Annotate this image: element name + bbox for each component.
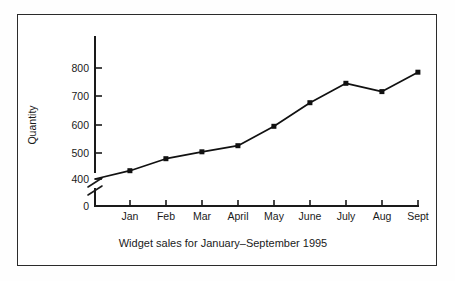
data-point-sept: [415, 70, 420, 75]
figure-root: Quantity 800 700 600 500 400 0: [0, 0, 455, 281]
x-tick-label-aug: Aug: [373, 210, 392, 222]
x-tick-label-mar: Mar: [193, 210, 212, 222]
data-point-april: [235, 143, 240, 148]
x-tick-label-june: June: [299, 210, 322, 222]
y-axis-title: Quantity: [26, 105, 38, 145]
x-tick-label-jan: Jan: [122, 210, 139, 222]
x-tick-label-sept: Sept: [407, 210, 429, 222]
y-tick-label-0: 0: [83, 200, 89, 212]
x-tick-label-april: April: [227, 210, 248, 222]
figure-caption: Widget sales for January–September 1995: [119, 237, 328, 249]
data-point-feb: [163, 156, 168, 161]
y-tick-label-700: 700: [71, 90, 89, 102]
y-tick-label-600: 600: [71, 119, 89, 131]
data-point-aug: [379, 89, 384, 94]
y-tick-label-800: 800: [71, 62, 89, 74]
data-point-may: [271, 124, 276, 129]
data-point-july: [343, 81, 348, 86]
x-tick-label-feb: Feb: [157, 210, 175, 222]
figure-frame: Quantity 800 700 600 500 400 0: [17, 14, 437, 266]
line-chart-canvas: Quantity 800 700 600 500 400 0: [18, 15, 436, 265]
y-tick-label-400: 400: [71, 173, 89, 185]
data-point-mar: [199, 149, 204, 154]
y-tick-label-500: 500: [71, 147, 89, 159]
data-point-june: [307, 100, 312, 105]
series-line-widget-sales: [95, 72, 418, 179]
x-tick-label-may: May: [264, 210, 285, 222]
data-point-jan: [127, 168, 132, 173]
x-tick-label-july: July: [337, 210, 356, 222]
